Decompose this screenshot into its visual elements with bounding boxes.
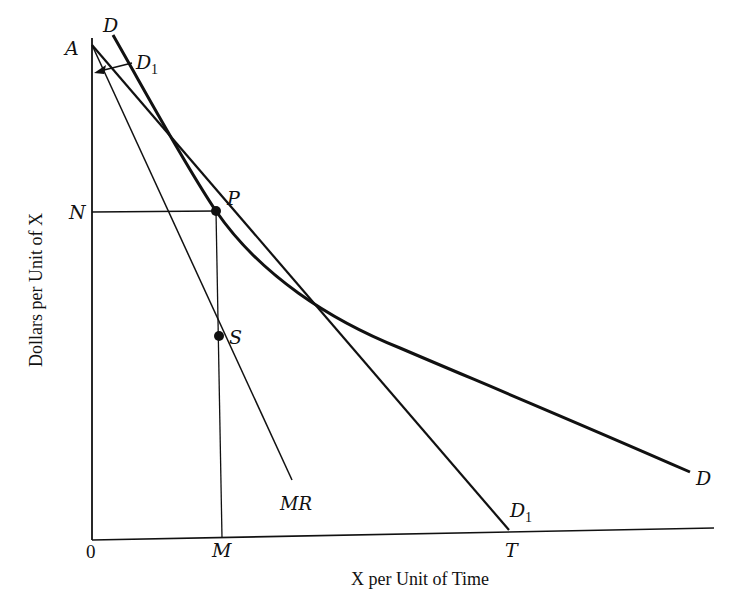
x-axis [92, 528, 714, 540]
label-a: A [63, 37, 79, 59]
label-s: S [229, 326, 242, 348]
y-axis-title: Dollars per Unit of X [26, 213, 46, 367]
label-d1-top: D [135, 51, 151, 73]
label-d1-top-sub: 1 [151, 62, 158, 77]
label-m: M [211, 539, 232, 561]
x-axis-title: X per Unit of Time [351, 569, 489, 589]
n-to-p-guide [92, 211, 216, 212]
label-p: P [226, 187, 241, 209]
tangent-demand-line-d1 [92, 45, 509, 530]
label-origin: 0 [86, 541, 96, 562]
label-n: N [68, 201, 87, 223]
point-p [211, 206, 221, 216]
p-to-m-guide [216, 211, 222, 538]
demand-diagram: D D 1 A N P S MR D 1 D T M 0 X per Unit … [0, 0, 749, 616]
point-s [214, 331, 224, 341]
label-d1-bottom-sub: 1 [525, 510, 532, 525]
label-mr: MR [279, 493, 312, 514]
arrowhead-icon [94, 65, 106, 74]
label-d1-bottom: D [509, 499, 525, 521]
label-d-top: D [102, 14, 118, 36]
label-d-end: D [695, 467, 711, 489]
label-t: T [505, 539, 519, 561]
